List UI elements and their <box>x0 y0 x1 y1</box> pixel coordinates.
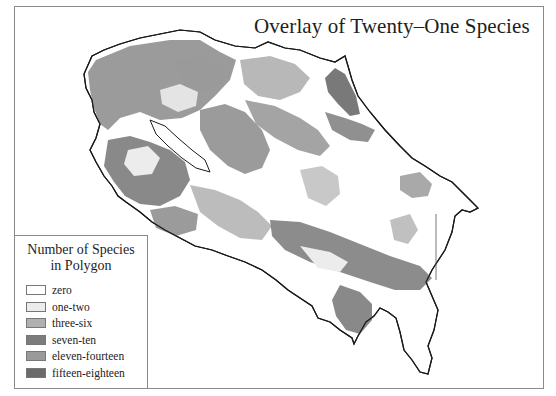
legend-swatch <box>26 302 46 312</box>
legend-title-line1: Number of Species <box>15 242 147 258</box>
legend-label: eleven-fourteen <box>52 350 124 362</box>
legend-label: zero <box>52 284 72 296</box>
legend-item-zero: zero <box>26 282 125 299</box>
legend-item-one-two: one-two <box>26 299 125 316</box>
legend-label: one-two <box>52 301 90 313</box>
legend-swatch <box>26 318 46 328</box>
legend-label: three-six <box>52 317 92 329</box>
legend-label: seven-ten <box>52 334 96 346</box>
legend-swatch <box>26 285 46 295</box>
legend-item-eleven-fourteen: eleven-fourteen <box>26 348 125 365</box>
legend-item-fifteen-eighteen: fifteen-eighteen <box>26 365 125 382</box>
legend-items: zero one-two three-six seven-ten eleven-… <box>26 282 125 381</box>
legend-item-seven-ten: seven-ten <box>26 332 125 349</box>
legend: Number of Species in Polygon zero one-tw… <box>14 235 148 389</box>
legend-swatch <box>26 351 46 361</box>
legend-title-line2: in Polygon <box>15 258 147 274</box>
legend-title: Number of Species in Polygon <box>15 242 147 274</box>
map-title: Overlay of Twenty–One Species <box>254 14 530 39</box>
legend-swatch <box>26 368 46 378</box>
legend-item-three-six: three-six <box>26 315 125 332</box>
legend-swatch <box>26 335 46 345</box>
legend-label: fifteen-eighteen <box>52 367 125 379</box>
